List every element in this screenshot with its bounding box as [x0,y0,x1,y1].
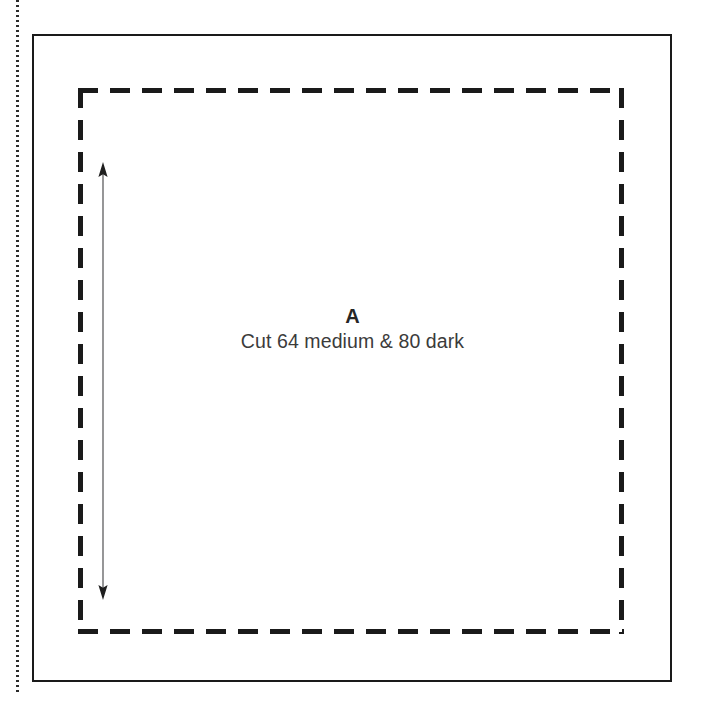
pattern-piece-label-group: A Cut 64 medium & 80 dark [0,304,701,353]
seam-line-edge-bottom [78,629,624,634]
pattern-piece-letter: A [4,304,701,328]
pattern-piece-cut-instruction: Cut 64 medium & 80 dark [4,329,701,353]
seam-line-edge-top [78,88,624,93]
pattern-sheet-page: A Cut 64 medium & 80 dark [0,0,701,716]
seam-line-rectangle [78,88,624,634]
seam-line-edge-right [619,88,624,634]
measurement-arrow-icon [89,162,117,600]
seam-line-edge-left [78,88,83,634]
